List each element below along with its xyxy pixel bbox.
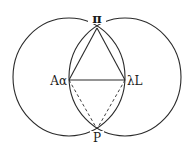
label-bottom-p: P bbox=[93, 131, 101, 145]
vesica-diagram: π Aα λL P bbox=[0, 0, 195, 153]
dashed-segment-right-bottom bbox=[97, 80, 125, 129]
label-right-lambda-l: λL bbox=[127, 74, 143, 88]
dashed-segment-left-bottom bbox=[69, 80, 97, 129]
label-left-a-alpha: Aα bbox=[49, 74, 67, 88]
label-top-pi: π bbox=[92, 11, 102, 26]
